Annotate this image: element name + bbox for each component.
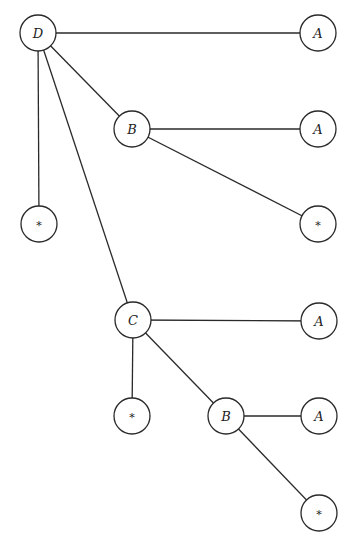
node-label: * <box>129 411 135 424</box>
tree-node-b: B <box>114 111 150 147</box>
node-label: A <box>312 26 322 41</box>
nodes-layer: DABA**CA*BA* <box>20 15 337 531</box>
edge-d-star <box>38 33 39 224</box>
tree-node-star: * <box>300 206 336 242</box>
tree-diagram: DABA**CA*BA* <box>0 0 356 548</box>
tree-node-star: * <box>21 206 57 242</box>
tree-node-a: A <box>301 303 337 339</box>
edge-d-c <box>38 33 133 320</box>
node-label: A <box>313 314 323 329</box>
edge-d-b <box>38 33 132 129</box>
tree-node-b: B <box>208 398 244 434</box>
node-label: D <box>32 26 44 41</box>
tree-node-a: A <box>300 15 336 51</box>
tree-node-a: A <box>300 111 336 147</box>
edge-b-star <box>132 129 318 224</box>
edge-c-b <box>133 320 226 416</box>
node-label: C <box>128 313 138 328</box>
node-label: A <box>313 409 323 424</box>
node-label: * <box>36 219 42 232</box>
edges-layer <box>38 33 319 513</box>
edge-b-star <box>226 416 319 513</box>
tree-node-a: A <box>301 398 337 434</box>
tree-node-c: C <box>115 302 151 338</box>
node-label: A <box>312 122 322 137</box>
tree-node-d: D <box>20 15 56 51</box>
tree-node-star: * <box>114 398 150 434</box>
node-label: B <box>220 409 231 424</box>
node-label: B <box>126 122 137 137</box>
tree-node-star: * <box>301 495 337 531</box>
node-label: * <box>315 219 321 232</box>
edge-c-a <box>133 320 319 321</box>
node-label: * <box>316 508 322 521</box>
